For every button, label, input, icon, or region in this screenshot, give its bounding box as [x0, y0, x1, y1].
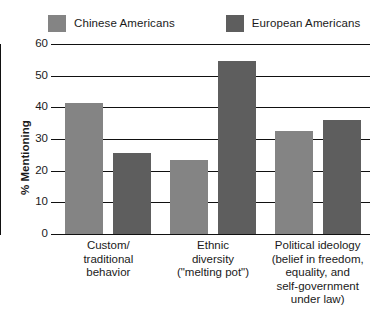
bar-chart-figure: Chinese Americans European Americans % M… [0, 0, 383, 319]
tick-mark [51, 44, 56, 45]
bar [170, 160, 208, 234]
tick-mark [51, 107, 56, 108]
y-tick-label: 60 [35, 38, 48, 50]
y-tick-label: 50 [35, 70, 48, 82]
gridline [56, 76, 370, 77]
bar [113, 153, 151, 234]
tick-mark [51, 139, 56, 140]
y-tick-label: 30 [35, 133, 48, 145]
legend-swatch-icon [48, 15, 66, 32]
legend-item-european-americans: European Americans [226, 15, 361, 32]
bar [323, 120, 361, 234]
legend-label: Chinese Americans [74, 17, 175, 29]
chart-legend: Chinese Americans European Americans [48, 12, 360, 34]
gridline [56, 44, 370, 45]
y-tick-label: 40 [35, 102, 48, 114]
bar [275, 131, 313, 234]
bar [65, 103, 103, 234]
plot-area: 0102030405060 [56, 44, 370, 234]
tick-mark [51, 171, 56, 172]
y-axis-line [0, 44, 1, 235]
y-tick-label: 10 [35, 197, 48, 209]
x-axis-category-label: Political ideology (belief in freedom, e… [252, 239, 383, 307]
legend-swatch-icon [226, 15, 244, 32]
tick-mark [51, 202, 56, 203]
bar [218, 61, 256, 234]
y-tick-label: 20 [35, 165, 48, 177]
gridline [56, 234, 370, 235]
x-axis-category-labels: Custom/ traditional behaviorEthnic diver… [56, 239, 370, 317]
tick-mark [51, 76, 56, 77]
y-axis-title: % Mentioning [19, 0, 31, 195]
y-tick-label: 0 [42, 228, 48, 240]
legend-item-chinese-americans: Chinese Americans [48, 15, 175, 32]
tick-mark [51, 234, 56, 235]
x-axis-category-label: Custom/ traditional behavior [49, 239, 167, 280]
legend-label: European Americans [252, 17, 361, 29]
